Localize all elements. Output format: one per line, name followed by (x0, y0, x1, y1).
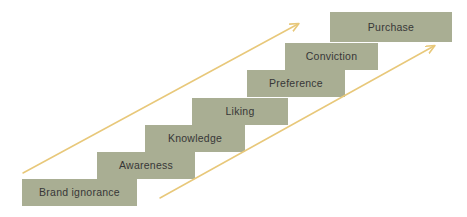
step-box-liking[interactable]: Liking (192, 98, 288, 125)
step-box-brand-ignorance[interactable]: Brand ignorance (22, 179, 137, 206)
step-box-preference[interactable]: Preference (247, 70, 345, 97)
step-box-conviction[interactable]: Conviction (285, 43, 378, 70)
step-label-preference: Preference (269, 78, 323, 89)
step-label-conviction: Conviction (306, 51, 358, 62)
step-label-brand-ignorance: Brand ignorance (39, 187, 120, 198)
step-box-knowledge[interactable]: Knowledge (145, 125, 245, 152)
hierarchy-of-effects-diagram: Brand ignorance Awareness Knowledge Liki… (0, 0, 467, 217)
step-label-liking: Liking (226, 106, 255, 117)
step-label-purchase: Purchase (368, 22, 414, 33)
step-layer: Brand ignorance Awareness Knowledge Liki… (0, 0, 467, 217)
step-label-knowledge: Knowledge (168, 133, 222, 144)
step-label-awareness: Awareness (119, 160, 173, 171)
step-box-purchase[interactable]: Purchase (330, 12, 452, 42)
step-box-awareness[interactable]: Awareness (97, 152, 195, 179)
